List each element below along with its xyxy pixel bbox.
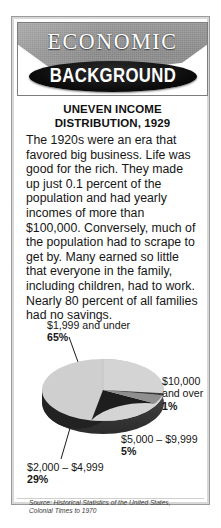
callout-under-2000-label: $1,999 and under	[47, 319, 130, 331]
pie-slices	[42, 359, 164, 421]
masthead-banner-label: BACKGROUND	[49, 65, 175, 88]
masthead: ECONOMIC BACKGROUND	[17, 22, 208, 96]
pie-3d-top	[42, 359, 164, 421]
pie-graphic	[42, 359, 164, 441]
callout-over-10000-value: 1%	[162, 400, 177, 412]
masthead-kicker: ECONOMIC	[18, 28, 207, 56]
article-content: UNEVEN INCOME DISTRIBUTION, 1929 The 192…	[17, 97, 208, 323]
masthead-banner-oval: BACKGROUND	[29, 61, 197, 92]
callout-over-10000-label-2: and over	[162, 387, 210, 399]
pie-chart: $1,999 and under 65% $10,000 and over 1%…	[17, 315, 208, 500]
article-headline: UNEVEN INCOME DISTRIBUTION, 1929	[26, 102, 199, 130]
frame-bottom-rule	[17, 498, 204, 499]
callout-over-10000-label-1: $10,000	[162, 375, 210, 387]
economic-background-infographic: ECONOMIC BACKGROUND UNEVEN INCOME DISTRI…	[0, 0, 221, 528]
infographic-frame-inner: ECONOMIC BACKGROUND UNEVEN INCOME DISTRI…	[12, 17, 209, 504]
chart-source: Source: Historical Statistics of the Uni…	[29, 499, 201, 516]
article-body: The 1920s were an era that favored big b…	[26, 133, 199, 323]
headline-line-1: UNEVEN INCOME	[26, 102, 199, 116]
headline-line-2: DISTRIBUTION, 1929	[26, 116, 199, 130]
chart-source-line-2: Colonial Times to 1970	[29, 507, 201, 515]
infographic-frame: ECONOMIC BACKGROUND UNEVEN INCOME DISTRI…	[11, 16, 210, 505]
callout-over-10000: $10,000 and over 1%	[162, 375, 210, 412]
callout-5000-9999-label: $5,000 – $9,999	[121, 433, 198, 445]
callout-5000-9999: $5,000 – $9,999 5%	[121, 433, 198, 458]
callout-under-2000: $1,999 and under 65%	[47, 319, 130, 344]
callout-2000-4999-label: $2,000 – $4,999	[27, 461, 104, 473]
callout-2000-4999-value: 29%	[27, 473, 48, 485]
callout-5000-9999-value: 5%	[121, 445, 136, 457]
callout-under-2000-value: 65%	[47, 331, 68, 343]
chart-source-line-1: Source: Historical Statistics of the Uni…	[29, 499, 201, 507]
callout-2000-4999: $2,000 – $4,999 29%	[27, 461, 104, 486]
